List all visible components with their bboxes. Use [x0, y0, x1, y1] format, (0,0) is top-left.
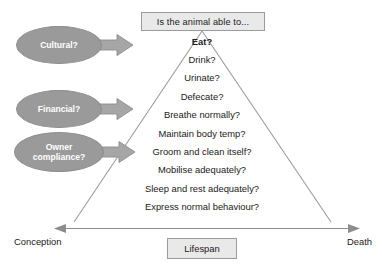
axis-left-arrowhead-icon [54, 224, 66, 233]
pyramid-item-label: Defecate? [181, 91, 224, 102]
pyramid-item: Sleep and rest adequately? [72, 179, 332, 197]
pyramid-item-label: Mobilise adequately? [158, 164, 246, 175]
pyramid-item: Express normal behaviour? [72, 198, 332, 216]
pyramid-item: Defecate? [72, 87, 332, 105]
lifespan-label: Lifespan [184, 243, 219, 254]
pyramid-item-label: Maintain body temp? [158, 128, 245, 139]
pyramid-item: Breathe normally? [72, 106, 332, 124]
pyramid-item: Maintain body temp? [72, 124, 332, 142]
lifespan-box: Lifespan [167, 238, 237, 259]
pyramid-item: Drink? [72, 50, 332, 68]
pyramid-item: Urinate? [72, 69, 332, 87]
pyramid-item-label: Eat? [192, 36, 212, 47]
pyramid-item: Mobilise adequately? [72, 161, 332, 179]
pyramid-item-label: Groom and clean itself? [152, 146, 251, 157]
pyramid-item-list: Eat? Drink? Urinate? Defecate? Breathe n… [72, 32, 332, 216]
pyramid-item: Groom and clean itself? [72, 142, 332, 160]
axis-right-arrowhead-icon [348, 224, 360, 233]
pyramid-item-label: Breathe normally? [164, 109, 240, 120]
header-question-box: Is the animal able to... [141, 12, 265, 31]
pyramid-item-label: Drink? [188, 54, 215, 65]
lifespan-axis-arrow [54, 224, 360, 233]
header-question-label: Is the animal able to... [157, 17, 249, 27]
pyramid-item-label: Express normal behaviour? [145, 201, 259, 212]
pyramid-item-label: Urinate? [184, 72, 219, 83]
pyramid-item: Eat? [72, 32, 332, 50]
axis-end-label: Death [347, 236, 372, 247]
pyramid-item-label: Sleep and rest adequately? [145, 183, 259, 194]
welfare-pyramid-diagram: Is the animal able to... Cultural? Finan… [0, 0, 382, 270]
axis-start-label: Conception [14, 236, 61, 247]
